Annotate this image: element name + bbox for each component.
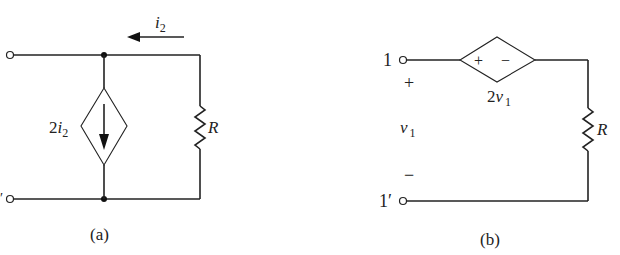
svg-text:i2: i2 xyxy=(155,13,166,35)
terminal-bottom-a xyxy=(7,196,14,203)
source-label-b: 2v1 xyxy=(487,87,511,109)
source-plus: + xyxy=(474,52,483,69)
terminal-1-prime-label: 1′ xyxy=(379,191,392,211)
terminal-mark-a: ′ xyxy=(0,191,3,206)
source-label-a: 2i2 xyxy=(49,118,68,140)
source-minus: − xyxy=(501,52,510,69)
resistor-a xyxy=(195,106,205,149)
terminal-1-label: 1 xyxy=(383,50,392,70)
caption-b: (b) xyxy=(480,230,500,249)
dependent-voltage-source xyxy=(460,37,535,82)
minus-sign: − xyxy=(404,165,414,185)
terminal-top-a xyxy=(7,52,14,59)
plus-sign: + xyxy=(404,73,414,93)
resistor-label-a: R xyxy=(207,118,219,137)
terminal-1 xyxy=(400,57,407,64)
resistor-label-b: R xyxy=(596,120,608,139)
v1-label: v1 xyxy=(400,118,416,140)
resistor-b xyxy=(583,108,593,151)
circuit-b: 1 1′ + − v1 + − 2v1 R (b) xyxy=(379,37,608,249)
terminal-1-prime xyxy=(400,198,407,205)
caption-a: (a) xyxy=(90,225,109,244)
circuit-diagrams: i2 2i2 R ′ (a) 1 1′ + − v1 + − xyxy=(0,0,620,255)
circuit-a: i2 2i2 R ′ (a) xyxy=(0,13,219,244)
